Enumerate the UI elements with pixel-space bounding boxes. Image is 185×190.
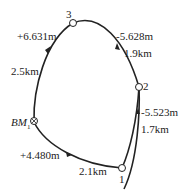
benchmark-label-main: BM (11, 116, 27, 128)
point-2-marker (136, 84, 143, 91)
benchmark-label: BM1 (11, 117, 30, 131)
point-1-label: 1 (119, 174, 125, 185)
point-2-label: 2 (143, 81, 149, 92)
point-3-marker (70, 20, 77, 27)
benchmark-icon (31, 118, 38, 125)
segment-2-3-height-diff: -5.628m (116, 31, 153, 42)
segment-3-bm1-height-diff: +6.631m (17, 31, 57, 42)
segment-bm1-1-height-diff: +4.480m (20, 150, 60, 161)
benchmark-label-sub: 1 (27, 123, 31, 131)
route-diagram (0, 0, 185, 190)
segment-3-bm1-distance: 2.5km (11, 66, 39, 77)
segment-1-2-distance: 1.7km (141, 124, 169, 135)
point-1-marker (119, 165, 126, 172)
segment-1-2-height-diff: -5.523m (141, 107, 178, 118)
segment-bm1-1-distance: 2.1km (79, 166, 107, 177)
point-3-label: 3 (66, 9, 72, 20)
segment-2-3-distance: 1.9km (124, 48, 152, 59)
